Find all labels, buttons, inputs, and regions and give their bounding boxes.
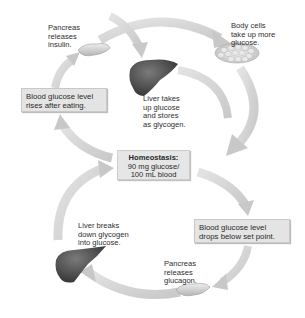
arrow-homeostasis-to-stimulus-up — [54, 114, 112, 158]
liver-stores-glycogen-label: Liver takes up glucose and stores as gly… — [143, 95, 186, 129]
glucose-homeostasis-diagram: Pancreas releases insulin. Body cells ta… — [0, 0, 305, 318]
arrow-homeostasis-to-drop — [198, 172, 254, 216]
arrow-drop-to-pancreas — [212, 246, 248, 290]
homeostasis-setpoint-box: Homeostasis: 90 mg glucose/ 100 mL blood — [117, 150, 190, 180]
pancreas-insulin-label: Pancreas releases insulin. — [48, 24, 80, 50]
pancreas-icon — [78, 44, 110, 56]
pancreas-glucagon-label: Pancreas releases glucagon. — [164, 260, 197, 286]
liver-breaks-glycogen-label: Liver breaks down glycogen into glucose. — [78, 222, 129, 248]
body-cells-label: Body cells take up more glucose. — [231, 22, 275, 48]
stimulus-rise-box: Blood glucose level rises after eating. — [21, 88, 107, 112]
arrow-stimulus-to-pancreas — [55, 52, 80, 88]
liver-icon — [129, 60, 178, 97]
stimulus-drop-box: Blood glucose level drops below set poin… — [194, 219, 290, 243]
